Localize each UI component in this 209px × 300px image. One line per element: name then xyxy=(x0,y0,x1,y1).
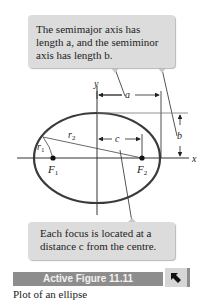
dimension-a xyxy=(97,91,161,158)
callout-focus-distance: Each focus is located at a distance c fr… xyxy=(28,222,175,260)
focus-f1 xyxy=(50,155,55,160)
callout-line: Each focus is located at a xyxy=(40,227,175,240)
label-a: a xyxy=(125,89,130,100)
callout-line: length a, and the semiminor xyxy=(36,36,175,49)
arrow-up-left-icon xyxy=(170,272,182,284)
focus-f2 xyxy=(139,155,144,160)
label-r1: r1 xyxy=(37,141,45,154)
x-axis-label: x xyxy=(191,153,197,164)
active-figure-label: Active Figure 11.11 xyxy=(13,272,163,286)
label-f2: F2 xyxy=(136,163,148,177)
callout-line: The semimajor axis has xyxy=(36,23,175,36)
active-figure-button[interactable] xyxy=(165,268,190,287)
callout-line: axis has length b. xyxy=(36,49,175,62)
label-r2: r2 xyxy=(68,129,76,142)
figure-caption: Plot of an ellipse xyxy=(13,288,87,300)
label-b: b xyxy=(177,130,182,141)
callout-line: distance c from the centre. xyxy=(40,240,175,253)
y-axis-label: y xyxy=(93,78,99,89)
label-c: c xyxy=(115,133,120,144)
label-f1: F1 xyxy=(47,163,59,177)
focal-radii xyxy=(43,137,142,158)
dimension-b xyxy=(97,113,188,156)
callout-semimajor-semiminor: The semimajor axis has length a, and the… xyxy=(28,15,175,68)
